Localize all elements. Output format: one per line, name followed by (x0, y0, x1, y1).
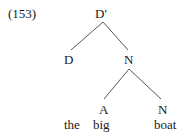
node-root-dbar: D' (95, 7, 107, 20)
node-n-head: N (158, 103, 167, 116)
branch-dbar-to-d (71, 22, 103, 50)
word-big: big (93, 118, 110, 131)
node-n-phrase: N (124, 53, 133, 66)
word-boat: boat (154, 118, 176, 131)
branch-dbar-to-n (103, 22, 128, 50)
branch-n-to-n (129, 69, 161, 99)
node-d: D (64, 53, 73, 66)
example-number: (153) (8, 7, 36, 20)
branch-n-to-a (104, 69, 129, 99)
word-the: the (64, 118, 80, 131)
node-a: A (99, 103, 108, 116)
